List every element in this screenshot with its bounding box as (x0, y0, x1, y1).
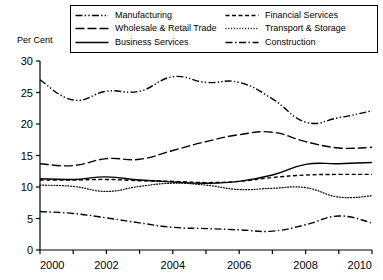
y-tick-label: 15 (21, 150, 33, 162)
y-tick-label: 10 (21, 181, 33, 193)
y-tick-label: 25 (21, 87, 33, 99)
y-tick-label: 20 (21, 118, 33, 130)
series-line-business-services (40, 162, 372, 183)
series-line-transport-storage (40, 183, 372, 198)
x-tick-label: 2006 (227, 259, 251, 271)
chart-figure: ManufacturingWholesale & Retail TradeBus… (0, 0, 383, 280)
line-chart-plot: 051015202530200020022004200620082010 (0, 0, 383, 280)
x-tick-label: 2004 (161, 259, 185, 271)
x-tick-label: 2000 (40, 259, 64, 271)
y-tick-label: 0 (27, 244, 33, 256)
y-tick-label: 30 (21, 55, 33, 67)
series-line-construction (40, 212, 372, 232)
x-tick-label: 2010 (348, 259, 372, 271)
x-tick-label: 2002 (94, 259, 118, 271)
x-tick-label: 2008 (293, 259, 317, 271)
series-line-wholesale-retail-trade (40, 132, 372, 166)
y-tick-label: 5 (27, 213, 33, 225)
series-line-manufacturing (40, 76, 372, 123)
